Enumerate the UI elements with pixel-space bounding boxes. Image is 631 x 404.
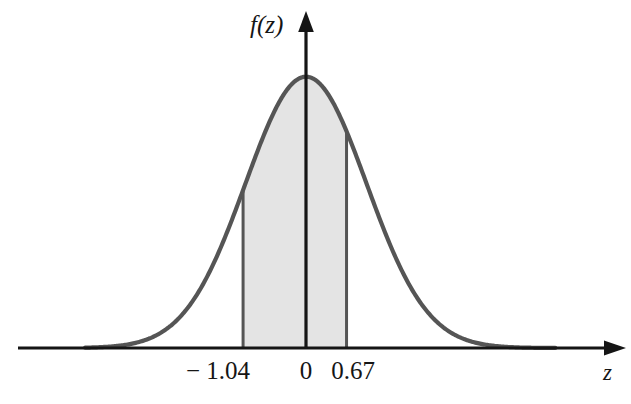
x-axis-arrow-icon [604,341,626,356]
tick-label-zero: 0 [286,358,326,383]
y-axis-label: f(z) [250,12,283,37]
normal-distribution-figure: f(z) z − 1.04 0 0.67 [0,0,631,404]
plot-area [0,0,631,404]
tick-label-positive: 0.67 [323,358,383,383]
tick-label-negative: − 1.04 [158,358,278,383]
x-axis-label: z [603,361,612,384]
shaded-region [243,77,346,348]
y-axis-arrow-icon [298,11,314,32]
